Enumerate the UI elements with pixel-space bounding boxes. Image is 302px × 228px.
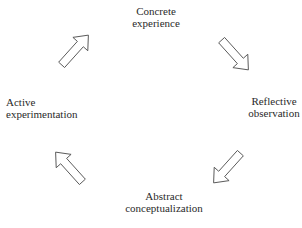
arrow-up-left-icon	[48, 145, 90, 188]
stage-label-line: observation	[244, 107, 302, 119]
stage-label-line: Reflective	[244, 95, 302, 107]
stage-active-experimentation: Active experimentation	[6, 96, 77, 120]
stage-label-line: Active	[6, 96, 77, 108]
stage-label-line: Concrete	[128, 5, 184, 17]
stage-label-line: conceptualization	[124, 202, 204, 214]
stage-abstract-conceptualization: Abstract conceptualization	[124, 190, 204, 214]
stage-reflective-observation: Reflective observation	[244, 95, 302, 119]
stage-label-line: experience	[128, 17, 184, 29]
stage-label-line: experimentation	[6, 108, 77, 120]
stage-label-line: Abstract	[124, 190, 204, 202]
stage-concrete-experience: Concrete experience	[128, 5, 184, 29]
arrow-down-right-icon	[214, 33, 256, 76]
arrow-up-right-icon	[54, 28, 96, 71]
arrow-down-left-icon	[206, 146, 248, 189]
